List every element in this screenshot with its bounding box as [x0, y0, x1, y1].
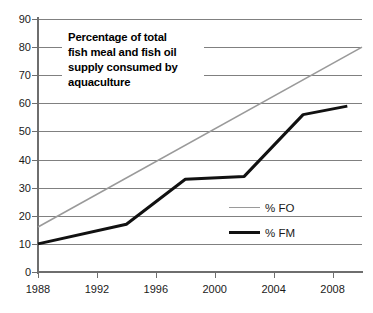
gridline-90: [38, 19, 362, 20]
x-tick-mark-1988: [38, 272, 39, 278]
gridline-20: [38, 216, 362, 217]
legend-label-fo: % FO: [265, 202, 294, 214]
y-tick-label-20: 20: [0, 211, 31, 222]
x-tick-mark-1996: [156, 272, 157, 278]
y-axis-line: [37, 17, 39, 274]
y-tick-label-90: 90: [0, 14, 31, 25]
y-tick-label-70: 70: [0, 70, 31, 81]
gridline-60: [38, 103, 362, 104]
x-tick-mark-2004: [274, 272, 275, 278]
gridline-10: [38, 244, 362, 245]
x-tick-mark-2000: [215, 272, 216, 278]
gridline-40: [38, 160, 362, 161]
legend-item-fm[interactable]: % FM: [227, 225, 297, 240]
x-tick-label-1996: 1996: [130, 283, 182, 295]
y-tick-label-60: 60: [0, 98, 31, 109]
x-tick-mark-2008: [333, 272, 334, 278]
x-tick-label-1988: 1988: [12, 283, 64, 295]
chart-title-line-3: supply consumed by: [68, 60, 202, 75]
x-tick-mark-1992: [97, 272, 98, 278]
x-axis-line: [37, 271, 363, 273]
legend-swatch-fo-icon: [229, 207, 260, 209]
x-tick-label-2008: 2008: [307, 283, 359, 295]
y-tick-label-30: 30: [0, 183, 31, 194]
chart-title-line-4: aquaculture: [68, 75, 202, 90]
x-tick-label-2000: 2000: [189, 283, 241, 295]
chart-title-line-1: Percentage of total: [68, 30, 202, 45]
legend-label-fm: % FM: [265, 227, 295, 239]
y-tick-label-10: 10: [0, 239, 31, 250]
x-tick-label-2004: 2004: [248, 283, 300, 295]
chart-title-line-2: fish meal and fish oil: [68, 45, 202, 60]
y-tick-label-40: 40: [0, 155, 31, 166]
chart-title: Percentage of total fish meal and fish o…: [62, 26, 204, 98]
legend-swatch-fm-icon: [229, 231, 260, 234]
gridline-30: [38, 188, 362, 189]
y-tick-label-50: 50: [0, 126, 31, 137]
legend-item-fo[interactable]: % FO: [227, 200, 296, 215]
x-tick-label-1992: 1992: [71, 283, 123, 295]
gridline-50: [38, 131, 362, 132]
y-tick-label-80: 80: [0, 42, 31, 53]
series-line-fm: [38, 106, 347, 244]
chart-figure: 9080706050403020100 19881992199620002004…: [0, 0, 373, 313]
y-tick-label-0: 0: [0, 267, 31, 278]
